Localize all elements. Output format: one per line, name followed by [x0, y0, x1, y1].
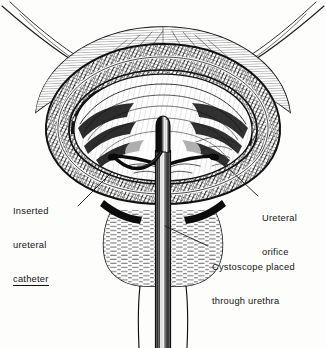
label-cystoscope-through-urethra: Cystoscope placed through urethra: [212, 239, 295, 330]
label-line-3-text: catheter: [13, 274, 49, 286]
label-line-1: Inserted: [13, 206, 49, 217]
label-line-1: Cystoscope placed: [212, 262, 295, 273]
label-line-2: ureteral: [13, 240, 49, 251]
cystoscopy-figure: Inserted ureteral catheter Ureteral orif…: [0, 0, 326, 348]
label-line-3: catheter: [13, 274, 49, 285]
label-inserted-ureteral-catheter: Inserted ureteral catheter: [13, 183, 49, 308]
label-line-2: through urethra: [212, 296, 295, 307]
cystoscope: [156, 116, 171, 348]
cystoscope-tip: [156, 116, 170, 152]
label-line-1: Ureteral: [262, 213, 297, 224]
